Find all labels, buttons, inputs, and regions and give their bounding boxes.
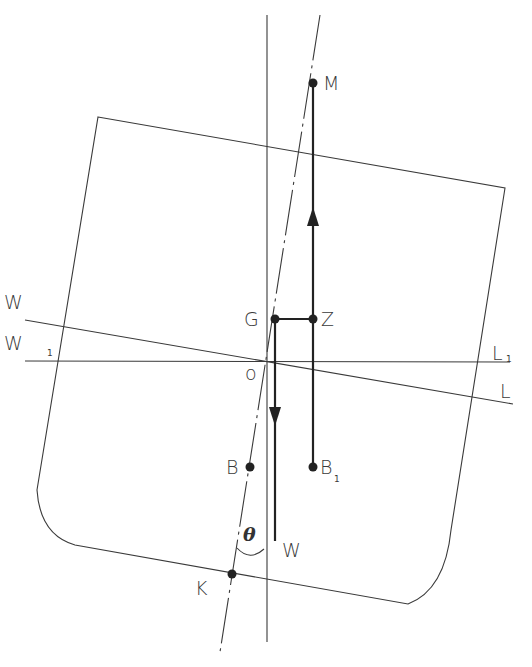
- label-theta: θ: [243, 523, 256, 545]
- label-l: L: [500, 380, 511, 402]
- label-k: K: [195, 577, 208, 599]
- label-g: G: [244, 308, 259, 330]
- label-l1-sub: 1: [506, 354, 512, 364]
- label-z: Z: [321, 308, 334, 330]
- point-m: [309, 79, 318, 88]
- hull-outline: [37, 117, 505, 604]
- label-b: B: [226, 456, 238, 478]
- label-m: M: [323, 72, 339, 94]
- point-g: [271, 315, 280, 324]
- label-b1: B: [320, 456, 332, 478]
- point-b1: [309, 463, 318, 472]
- ship-centreline: [220, 15, 320, 652]
- ship-stability-diagram: M G Z W W 1 L 1 L o B B 1 θ W K: [0, 0, 532, 667]
- point-b: [246, 463, 255, 472]
- down-arrow-icon: [269, 407, 281, 426]
- point-k: [228, 570, 237, 579]
- label-b1-sub: 1: [334, 474, 340, 484]
- label-w1-sub: 1: [47, 348, 53, 358]
- label-w: W: [4, 291, 23, 313]
- up-arrow-icon: [307, 207, 319, 226]
- label-l1: L: [492, 342, 503, 364]
- label-weight-w: W: [282, 539, 301, 561]
- heel-angle-arc: [237, 548, 264, 555]
- label-o: o: [245, 362, 257, 384]
- point-z: [309, 315, 318, 324]
- label-w1: W: [4, 332, 23, 354]
